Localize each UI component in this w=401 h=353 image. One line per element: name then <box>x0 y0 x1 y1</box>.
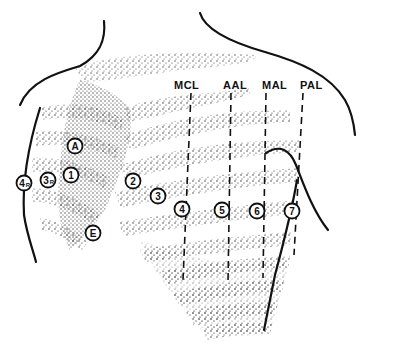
electrode-4-label: 4 <box>179 204 185 215</box>
electrode-3r-sub: R <box>50 179 55 185</box>
electrode-e-label: E <box>90 228 97 239</box>
electrode-1-label: 1 <box>68 170 74 181</box>
chest-electrode-diagram: MCL AAL MAL PAL A 1 3 R 4 R <box>0 0 401 353</box>
electrode-2: 2 <box>126 174 141 189</box>
electrode-3: 3 <box>151 189 166 204</box>
electrode-7-label: 7 <box>289 206 295 217</box>
label-mal: MAL <box>262 79 287 91</box>
label-mcl: MCL <box>174 79 199 91</box>
electrode-4r-sub: R <box>26 182 31 188</box>
electrode-a: A <box>68 139 83 154</box>
electrode-5-label: 5 <box>219 205 225 216</box>
electrode-3-label: 3 <box>155 191 161 202</box>
electrode-6-label: 6 <box>254 206 260 217</box>
electrode-4: 4 <box>175 202 190 217</box>
electrode-7: 7 <box>285 204 300 219</box>
electrode-5: 5 <box>215 203 230 218</box>
electrode-3r-label: 3 <box>43 175 49 186</box>
electrode-4r-label: 4 <box>19 178 25 189</box>
electrode-1: 1 <box>64 168 79 183</box>
label-pal: PAL <box>300 79 323 91</box>
electrode-6: 6 <box>250 204 265 219</box>
electrode-4r: 4 R <box>17 176 32 191</box>
electrode-2-label: 2 <box>130 176 136 187</box>
electrode-e: E <box>86 226 101 241</box>
electrode-3r: 3 R <box>41 173 56 188</box>
label-aal: AAL <box>223 79 247 91</box>
electrode-a-label: A <box>71 141 78 152</box>
